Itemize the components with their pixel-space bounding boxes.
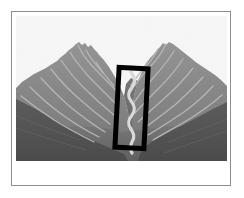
figure-root bbox=[0, 0, 244, 198]
scene-grain-overlay bbox=[16, 16, 227, 161]
scene-viewport bbox=[16, 16, 227, 161]
mountain-valley-illustration bbox=[16, 16, 227, 161]
figure-caption bbox=[16, 163, 227, 183]
